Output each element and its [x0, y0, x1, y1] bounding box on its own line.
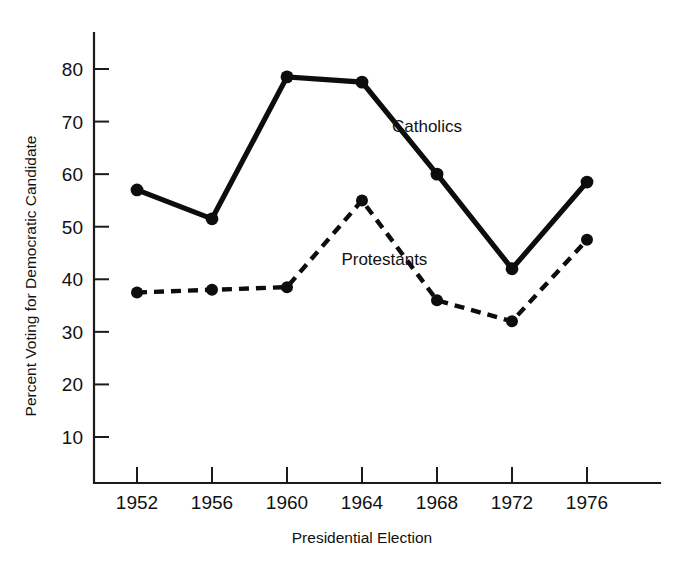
y-tick-label: 80 [62, 59, 83, 80]
line-chart-canvas: 1020304050607080 19521956196019641968197… [0, 0, 700, 574]
x-tick-label: 1976 [566, 492, 608, 513]
data-point-protestants-1952 [131, 286, 143, 298]
y-tick-label: 20 [62, 374, 83, 395]
data-point-protestants-1968 [431, 294, 443, 306]
data-point-protestants-1972 [506, 315, 518, 327]
x-tick-label: 1952 [116, 492, 158, 513]
data-point-protestants-1976 [581, 234, 593, 246]
data-point-catholics-1952 [131, 184, 144, 197]
y-tick-label: 10 [62, 427, 83, 448]
data-point-catholics-1956 [206, 212, 219, 225]
data-point-catholics-1964 [356, 76, 369, 89]
series-annotations: CatholicsProtestants [341, 117, 462, 268]
data-point-catholics-1968 [431, 168, 444, 181]
series-line-catholics [137, 77, 587, 269]
x-tick-label: 1960 [266, 492, 308, 513]
y-tick-labels: 1020304050607080 [62, 59, 83, 448]
x-axis-title: Presidential Election [292, 529, 432, 546]
x-tick-label: 1972 [491, 492, 533, 513]
chart-figure: 1020304050607080 19521956196019641968197… [0, 0, 700, 574]
y-axis-title: Percent Voting for Democratic Candidate [22, 136, 39, 417]
x-tick-label: 1956 [191, 492, 233, 513]
y-tick-label: 50 [62, 217, 83, 238]
y-tick-label: 60 [62, 164, 83, 185]
y-tick-label: 40 [62, 269, 83, 290]
series-label-catholics: Catholics [392, 117, 462, 136]
tick-marks [94, 69, 587, 483]
data-point-catholics-1972 [506, 262, 519, 275]
x-tick-label: 1964 [341, 492, 384, 513]
x-tick-label: 1968 [416, 492, 458, 513]
x-tick-labels: 1952195619601964196819721976 [116, 492, 608, 513]
series-label-protestants: Protestants [341, 250, 427, 269]
data-point-protestants-1956 [206, 284, 218, 296]
data-point-protestants-1960 [281, 281, 293, 293]
data-point-catholics-1960 [281, 70, 294, 83]
y-tick-label: 70 [62, 112, 83, 133]
data-point-catholics-1976 [581, 176, 594, 189]
data-point-protestants-1964 [356, 194, 368, 206]
y-tick-label: 30 [62, 322, 83, 343]
data-point-markers [131, 70, 594, 327]
